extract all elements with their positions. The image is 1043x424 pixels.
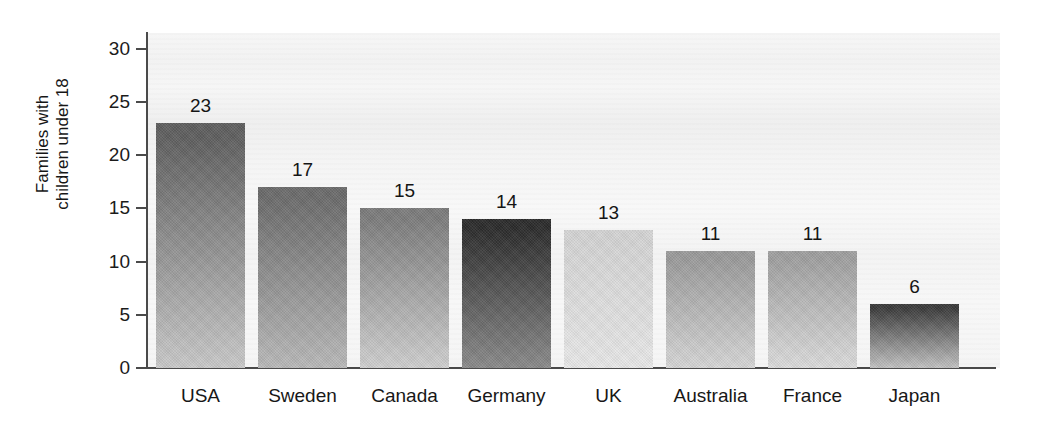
- category-label-germany: Germany: [462, 386, 551, 405]
- y-axis-tick-label: 5: [88, 305, 130, 324]
- bar-value-label: 11: [666, 224, 755, 243]
- category-label-uk: UK: [564, 386, 653, 405]
- bar-value-label: 13: [564, 203, 653, 222]
- category-label-usa: USA: [156, 386, 245, 405]
- bar-texture: [360, 208, 449, 368]
- bar-uk[interactable]: 13: [564, 230, 653, 368]
- y-axis-title: Families with children under 18: [33, 78, 73, 209]
- bar-value-label: 23: [156, 96, 245, 115]
- category-label-canada: Canada: [360, 386, 449, 405]
- y-axis-tick-label: 15: [88, 198, 130, 217]
- bar-texture: [462, 219, 551, 368]
- bar-france[interactable]: 11: [768, 251, 857, 368]
- y-axis-tick-label: 20: [88, 145, 130, 164]
- y-axis-tick-label: 30: [88, 39, 130, 58]
- bar-germany[interactable]: 14: [462, 219, 551, 368]
- bar-australia[interactable]: 11: [666, 251, 755, 368]
- bar-texture: [666, 251, 755, 368]
- bar-texture: [564, 230, 653, 368]
- bar-texture: [258, 187, 347, 368]
- bar-usa[interactable]: 23: [156, 123, 245, 368]
- bar-value-label: 6: [870, 277, 959, 296]
- category-label-australia: Australia: [666, 386, 755, 405]
- category-label-japan: Japan: [870, 386, 959, 405]
- bar-value-label: 11: [768, 224, 857, 243]
- bar-japan[interactable]: 6: [870, 304, 959, 368]
- bar-texture: [870, 304, 959, 368]
- bar-texture: [768, 251, 857, 368]
- bar-texture: [156, 123, 245, 368]
- bar-value-label: 15: [360, 181, 449, 200]
- bar-chart-figure: Families with children under 18 05101520…: [0, 0, 1043, 424]
- y-axis-tick-label: 25: [88, 92, 130, 111]
- bar-value-label: 14: [462, 192, 551, 211]
- bar-sweden[interactable]: 17: [258, 187, 347, 368]
- y-axis-tick-label: 10: [88, 252, 130, 271]
- y-axis-title-wrapper: Families with children under 18: [27, 29, 79, 259]
- bar-value-label: 17: [258, 160, 347, 179]
- category-label-sweden: Sweden: [258, 386, 347, 405]
- category-label-france: France: [768, 386, 857, 405]
- bar-canada[interactable]: 15: [360, 208, 449, 368]
- y-axis-tick-label: 0: [88, 358, 130, 377]
- bars-layer: 231715141311116: [147, 33, 1000, 368]
